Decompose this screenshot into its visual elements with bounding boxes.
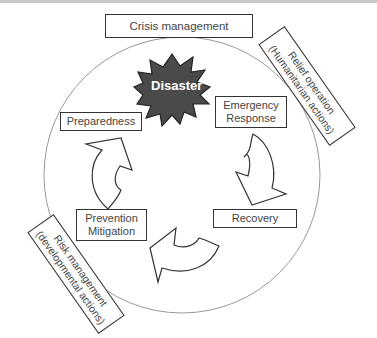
phase-label: Recovery bbox=[232, 212, 278, 225]
cycle-graphic bbox=[0, 0, 377, 338]
title-box: Crisis management bbox=[105, 14, 253, 38]
phase-prevention-mitigation: Prevention Mitigation bbox=[76, 209, 147, 241]
phase-label: Preparedness bbox=[67, 115, 136, 128]
title-label: Crisis management bbox=[129, 20, 228, 33]
phase-label: Mitigation bbox=[88, 225, 135, 238]
phase-preparedness: Preparedness bbox=[60, 112, 142, 131]
curved-arrow-icon bbox=[150, 228, 219, 282]
curved-arrow-icon bbox=[236, 134, 286, 205]
phase-emergency-response: Emergency Response bbox=[215, 96, 287, 128]
curved-arrow-icon bbox=[86, 138, 132, 209]
phase-label: Emergency bbox=[223, 99, 279, 112]
phase-recovery: Recovery bbox=[213, 209, 297, 228]
phase-label: Prevention bbox=[85, 212, 138, 225]
disaster-label: Disaster bbox=[151, 78, 202, 93]
phase-label: Response bbox=[226, 112, 276, 125]
